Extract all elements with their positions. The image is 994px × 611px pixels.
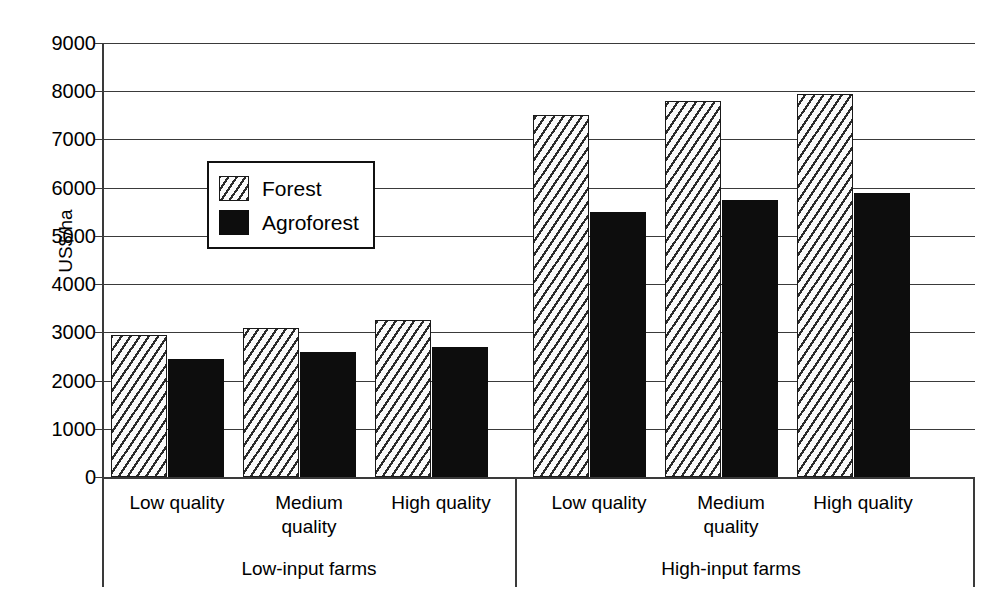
x-axis-category-label: High quality xyxy=(363,491,519,515)
y-axis-tick-label: 2000 xyxy=(34,371,96,391)
bar-agroforest xyxy=(300,352,356,477)
bar-agroforest xyxy=(590,212,646,477)
y-axis-tick-label: 7000 xyxy=(34,129,96,149)
bar-forest xyxy=(375,320,431,477)
bar-forest xyxy=(797,94,853,477)
y-axis-tick xyxy=(95,43,103,44)
chart-legend: ForestAgroforest xyxy=(207,161,375,249)
y-axis-tick xyxy=(95,381,103,382)
y-axis-tick xyxy=(95,332,103,333)
legend-swatch-agroforest xyxy=(219,210,249,235)
y-axis-tick-label: 3000 xyxy=(34,322,96,342)
x-axis-category-label: High quality xyxy=(785,491,941,515)
y-axis-tick-label: 1000 xyxy=(34,419,96,439)
y-axis-tick-label: 6000 xyxy=(34,178,96,198)
y-axis-tick-label: 8000 xyxy=(34,81,96,101)
bar-forest xyxy=(111,335,167,477)
bar-agroforest xyxy=(168,359,224,477)
x-axis-group-divider xyxy=(973,477,975,587)
x-axis-baseline xyxy=(103,477,975,479)
y-axis-line xyxy=(102,43,104,477)
legend-item: Forest xyxy=(219,171,359,205)
x-axis-group-label: High-input farms xyxy=(581,558,881,580)
y-axis-tick xyxy=(95,139,103,140)
y-axis-tick xyxy=(95,236,103,237)
legend-swatch-forest xyxy=(219,176,249,201)
gridline xyxy=(103,43,975,44)
bar-forest xyxy=(533,115,589,477)
y-axis-tick-label: 9000 xyxy=(34,33,96,53)
legend-item: Agroforest xyxy=(219,205,359,239)
x-axis-group-label: Low-input farms xyxy=(159,558,459,580)
y-axis-tick-label: 4000 xyxy=(34,274,96,294)
y-axis-tick-label: 5000 xyxy=(34,226,96,246)
gridline xyxy=(103,91,975,92)
y-axis-tick xyxy=(95,188,103,189)
y-axis-tick xyxy=(95,284,103,285)
y-axis-tick-label: 0 xyxy=(34,467,96,487)
bar-agroforest xyxy=(432,347,488,477)
bar-agroforest xyxy=(854,193,910,478)
bar-forest xyxy=(665,101,721,477)
y-axis-tick-labels: 9000800070006000500040003000200010000 xyxy=(34,0,96,611)
plot-area xyxy=(103,43,975,477)
legend-label: Forest xyxy=(262,178,322,199)
x-axis-group-divider xyxy=(515,477,517,587)
legend-label: Agroforest xyxy=(262,212,359,233)
bar-chart: US$/ha 900080007000600050004000300020001… xyxy=(0,0,994,611)
bar-agroforest xyxy=(722,200,778,477)
y-axis-tick xyxy=(95,91,103,92)
bar-forest xyxy=(243,328,299,477)
x-axis-group-divider xyxy=(102,477,104,587)
y-axis-tick xyxy=(95,429,103,430)
x-axis-label-area: Low qualityMediumqualityHigh qualityLow … xyxy=(103,477,975,597)
